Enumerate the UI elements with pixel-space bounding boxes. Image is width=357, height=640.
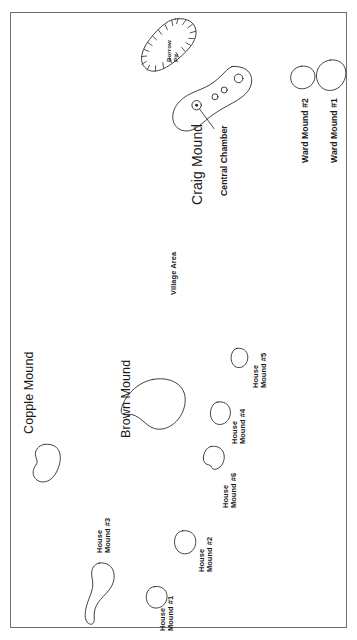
label-house-mound-6: House Mound #6 xyxy=(222,473,239,508)
label-borrow-pit: Borrow Pit xyxy=(166,40,180,62)
map-frame-border xyxy=(10,12,347,628)
label-house-mound-5: House Mound #5 xyxy=(252,353,269,388)
label-central-chamber: Central Chamber xyxy=(220,125,230,196)
label-house-mound-2: House Mound #2 xyxy=(198,537,215,572)
label-ward-mound-2: Ward Mound #2 xyxy=(301,98,311,163)
label-brown-mound: Brown Mound xyxy=(119,360,133,438)
label-house-mound-3: House Mound #3 xyxy=(96,518,113,553)
label-house-mound-4: House Mound #4 xyxy=(231,409,248,444)
label-craig-mound: Craig Mound xyxy=(190,124,206,205)
label-ward-mound-1: Ward Mound #1 xyxy=(330,98,340,163)
label-village-area: Village Area xyxy=(170,252,178,295)
label-copple-mound: Copple Mound xyxy=(22,351,36,434)
label-house-mound-1: House Mound #1 xyxy=(159,596,176,631)
site-map-page: Borrow Pit Craig Mound Central Chamber W… xyxy=(0,0,357,640)
